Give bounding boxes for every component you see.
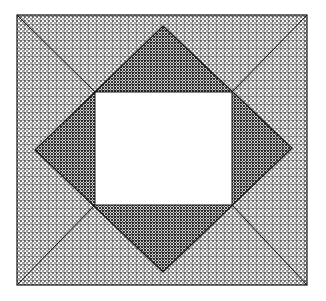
inner-white-square [95, 92, 232, 205]
figure-root [0, 0, 326, 301]
geometric-figure-svg [0, 0, 326, 301]
